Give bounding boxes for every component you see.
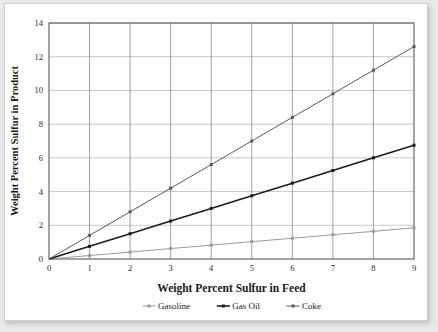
data-point-marker [169, 187, 172, 190]
data-point-marker [413, 144, 416, 147]
data-point-marker [413, 226, 416, 229]
data-point-marker [129, 232, 132, 235]
y-tick-label: 12 [35, 52, 44, 62]
x-tick-label: 9 [412, 263, 416, 273]
x-axis-tick-labels: 0123456789 [47, 263, 416, 273]
y-tick-label: 0 [39, 254, 43, 264]
data-point-marker [88, 245, 91, 248]
data-point-marker [331, 92, 334, 95]
legend-marker-icon [222, 305, 225, 308]
y-axis-tick-labels: 02468101214 [35, 18, 44, 264]
x-tick-label: 0 [47, 263, 51, 273]
data-point-marker [413, 45, 416, 48]
x-tick-label: 5 [250, 263, 254, 273]
y-axis-title: Weight Percent Sulfur in Product [9, 66, 20, 216]
data-point-marker [372, 230, 375, 233]
data-point-marker [331, 233, 334, 236]
legend-item-coke[interactable]: Coke [287, 301, 322, 311]
data-point-marker [169, 247, 172, 250]
data-point-marker [210, 207, 213, 210]
chart-legend: GasolineGas OilCoke [143, 301, 322, 311]
data-point-marker [169, 220, 172, 223]
x-tick-label: 4 [209, 263, 214, 273]
data-point-marker [372, 69, 375, 72]
y-tick-label: 2 [39, 220, 43, 230]
legend-item-gas-oil[interactable]: Gas Oil [217, 301, 261, 311]
chart-page: 012345678902468101214Weight Percent Sulf… [0, 0, 438, 332]
data-point-marker [291, 182, 294, 185]
y-tick-label: 14 [35, 18, 44, 28]
line-chart: 012345678902468101214Weight Percent Sulf… [5, 4, 427, 320]
x-tick-label: 7 [331, 263, 335, 273]
figure-frame: 012345678902468101214Weight Percent Sulf… [4, 3, 428, 321]
y-tick-label: 4 [39, 187, 44, 197]
data-point-marker [88, 234, 91, 237]
x-tick-label: 6 [290, 263, 294, 273]
x-tick-label: 1 [87, 263, 91, 273]
data-point-marker [88, 254, 91, 257]
plot-area-background [49, 23, 414, 259]
legend-marker-icon [292, 305, 295, 308]
x-tick-label: 3 [169, 263, 173, 273]
data-point-marker [372, 156, 375, 159]
data-point-marker [250, 194, 253, 197]
data-point-marker [129, 251, 132, 254]
legend-item-gasoline[interactable]: Gasoline [143, 301, 191, 311]
data-point-marker [250, 240, 253, 243]
legend-label: Gas Oil [232, 301, 260, 311]
data-point-marker [129, 210, 132, 213]
data-point-marker [250, 140, 253, 143]
data-point-marker [210, 244, 213, 247]
y-tick-label: 6 [39, 153, 43, 163]
data-point-marker [210, 163, 213, 166]
x-tick-label: 2 [128, 263, 132, 273]
y-tick-label: 10 [35, 85, 44, 95]
data-point-marker [291, 237, 294, 240]
x-tick-label: 8 [371, 263, 375, 273]
legend-label: Gasoline [158, 301, 190, 311]
y-tick-label: 8 [39, 119, 43, 129]
x-axis-title: Weight Percent Sulfur in Feed [157, 282, 306, 295]
legend-label: Coke [302, 301, 321, 311]
legend-marker-icon [148, 305, 151, 308]
data-point-marker [331, 169, 334, 172]
data-point-marker [291, 116, 294, 119]
